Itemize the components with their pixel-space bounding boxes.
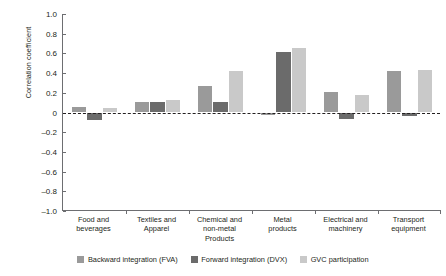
y-axis-tick-mark — [63, 191, 66, 192]
y-axis-title: Correlation coefficient — [24, 0, 33, 143]
bar — [150, 102, 165, 113]
x-axis-label: Transportequipment — [377, 215, 440, 234]
x-axis-tick-mark — [252, 210, 253, 214]
y-axis-tick-label: 0.4 — [46, 69, 57, 78]
bar — [229, 71, 244, 112]
y-axis-tick-label: –0.6 — [41, 167, 57, 176]
legend-swatch-icon — [300, 256, 307, 263]
plot-area: 1.00.80.60.40.20–0.2–0.4–0.6–0.8–1.0 — [62, 14, 440, 211]
x-axis-label: Textiles andApparel — [125, 215, 188, 234]
y-axis-tick-mark — [63, 152, 66, 153]
legend-item[interactable]: GVC participation — [300, 255, 368, 264]
bar — [355, 95, 370, 113]
y-axis-tick-label: –0.2 — [41, 128, 57, 137]
chart-legend: Backward integration (FVA)Forward integr… — [0, 255, 446, 264]
legend-item[interactable]: Backward integration (FVA) — [77, 255, 177, 264]
chart-container: Correlation coefficient 1.00.80.60.40.20… — [0, 0, 446, 276]
y-axis-tick-label: 0.8 — [46, 29, 57, 38]
y-axis-tick-label: 1.0 — [46, 10, 57, 19]
legend-item-label: Backward integration (FVA) — [88, 255, 178, 264]
bar — [339, 113, 354, 120]
legend-swatch-icon — [191, 256, 198, 263]
y-axis-tick-mark — [63, 172, 66, 173]
bar — [418, 70, 433, 112]
y-axis-tick-mark — [63, 73, 66, 74]
x-axis-label: Electrical andmachinery — [314, 215, 377, 234]
y-axis-tick-label: 0 — [53, 108, 57, 117]
bar — [324, 92, 339, 113]
y-axis-tick-mark — [63, 132, 66, 133]
legend-item-label: GVC participation — [311, 255, 369, 264]
x-axis-tick-mark — [126, 210, 127, 214]
bar — [213, 102, 228, 113]
bar — [276, 52, 291, 112]
legend-item-label: Forward integration (DVX) — [201, 255, 287, 264]
x-axis-tick-mark — [378, 210, 379, 214]
y-axis-tick-label: –1.0 — [41, 207, 57, 216]
legend-item[interactable]: Forward integration (DVX) — [191, 255, 287, 264]
bar — [135, 102, 150, 113]
legend-swatch-icon — [77, 256, 84, 263]
x-axis-tick-mark — [440, 210, 441, 214]
y-axis-tick-label: 0.2 — [46, 88, 57, 97]
y-axis-tick-mark — [63, 93, 66, 94]
bar — [198, 86, 213, 113]
bar — [87, 113, 102, 121]
x-axis-label: Food andbeverages — [62, 215, 125, 234]
y-axis-tick-mark — [63, 211, 66, 212]
y-axis-tick-mark — [63, 34, 66, 35]
y-axis-tick-label: –0.4 — [41, 147, 57, 156]
x-axis-label: Chemical andnon-metalProducts — [188, 215, 251, 243]
x-axis-label: Metalproducts — [251, 215, 314, 234]
y-axis-tick-mark — [63, 14, 66, 15]
x-axis-labels: Food andbeveragesTextiles andApparelChem… — [62, 215, 440, 249]
bar — [292, 48, 307, 112]
bar — [166, 100, 181, 113]
x-axis-tick-mark — [189, 210, 190, 214]
y-axis-tick-mark — [63, 53, 66, 54]
zero-reference-line — [63, 113, 440, 114]
y-axis-tick-label: –0.8 — [41, 187, 57, 196]
x-axis-tick-mark — [315, 210, 316, 214]
y-axis-tick-label: 0.6 — [46, 49, 57, 58]
bar — [387, 71, 402, 112]
